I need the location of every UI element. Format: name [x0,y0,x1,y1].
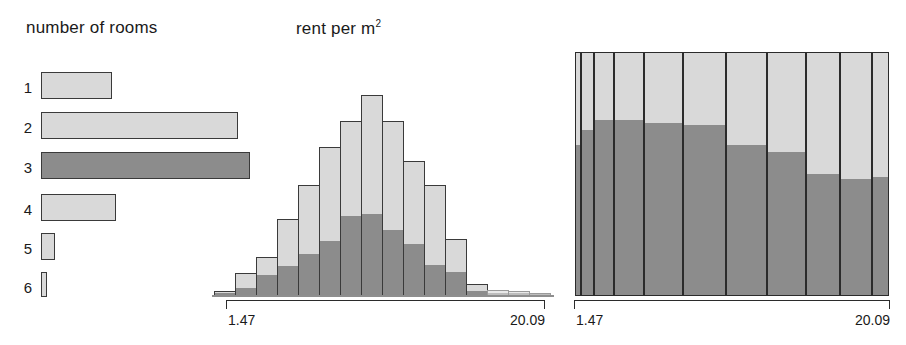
rent-hist-bar-dark-segment [425,265,445,295]
rent-hist-bar-dark-segment [362,214,382,295]
rent-histogram-plot [196,0,562,345]
rent-hist-bar[interactable] [445,239,467,296]
cropped-footnote-text [20,329,24,344]
rent-hist-bar-dark-segment [320,241,340,295]
rent-hist-bar-dark-segment [383,230,403,295]
rent-hist-bar-dark-segment [236,288,256,295]
rent-hist-bar-dark-segment [278,266,298,295]
rooms-category-label: 1 [8,79,32,96]
rooms-category-label: 2 [8,119,32,136]
rent-hist-bar[interactable] [277,219,299,296]
rent-x-axis-min-label: 1.47 [228,312,255,328]
spine-x-axis [574,300,890,309]
rent-hist-bar[interactable] [382,121,404,296]
spine-plot-frame [575,52,889,296]
rooms-category-label: 3 [8,159,32,176]
rent-hist-bar-dark-segment [257,275,277,295]
spine-plot-area [575,52,889,296]
rent-hist-bar[interactable] [256,257,278,296]
rent-hist-bar[interactable] [235,273,257,296]
rent-hist-baseline [212,295,554,297]
rent-hist-bar-dark-segment [446,272,466,295]
rent-hist-bar-dark-segment [299,254,319,295]
rent-hist-bar[interactable] [403,161,425,296]
rent-histogram-panel: rent per m2 1.47 20.09 [196,0,562,345]
rooms-bar-5[interactable] [41,233,55,260]
rooms-bar-6[interactable] [41,272,47,297]
rent-hist-bar[interactable] [319,147,341,296]
rent-hist-bar[interactable] [298,185,320,296]
rent-hist-bar-dark-segment [341,216,361,295]
rent-x-axis [226,300,545,309]
rooms-category-label: 6 [8,279,32,296]
rent-hist-bar[interactable] [361,95,383,296]
rooms-category-label: 5 [8,240,32,257]
rooms-chart-title: number of rooms [26,18,158,38]
spine-x-axis-min-label: 1.47 [576,312,603,328]
rooms-bar-1[interactable] [41,72,112,99]
rent-hist-bar[interactable] [424,185,446,296]
rent-spine-plot-panel: 1.47 20.09 [560,0,906,345]
rent-hist-bar-dark-segment [404,244,424,295]
spine-x-axis-max-label: 20.09 [820,312,890,328]
rent-x-axis-max-label: 20.09 [475,312,545,328]
rooms-bar-4[interactable] [41,194,116,221]
rent-hist-bar[interactable] [340,121,362,296]
rooms-category-label: 4 [8,201,32,218]
